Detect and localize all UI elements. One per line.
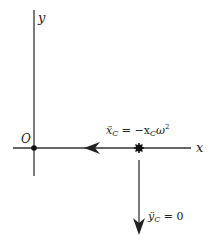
- y-axis-label: y: [37, 10, 46, 25]
- y-acceleration-annotation: ÿC = 0: [147, 210, 184, 224]
- x-acceleration-annotation: ẍC = −xCω2: [106, 123, 170, 138]
- diagram-canvas: y x O ẍC = −xCω2 ÿC = 0: [0, 0, 213, 245]
- particle-star-icon: [134, 143, 144, 153]
- x-axis-label: x: [196, 140, 204, 155]
- origin-label: O: [21, 132, 31, 146]
- origin-dot: [31, 145, 37, 151]
